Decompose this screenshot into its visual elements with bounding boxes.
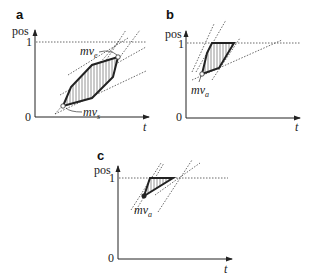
leader-mva-b xyxy=(199,76,201,82)
annotation-mvs: mvs xyxy=(83,105,100,121)
panel-label-b: b xyxy=(166,7,174,22)
start-point-b xyxy=(200,72,204,76)
feasible-region-b xyxy=(202,43,234,74)
x-axis-label-a: t xyxy=(143,120,147,134)
feasible-region-c xyxy=(144,178,173,196)
tick-0-a: 0 xyxy=(25,110,31,124)
leader-mvs xyxy=(66,108,82,112)
start-point-c xyxy=(142,194,146,198)
figure-canvas: a pos 1 0 t mve mvs b pos 1 xyxy=(0,0,312,280)
tick-0-c: 0 xyxy=(108,251,114,265)
panel-c: c pos 1 0 t mva xyxy=(94,148,232,276)
feasible-region-a xyxy=(63,57,118,106)
annotation-mve: mve xyxy=(80,44,98,60)
end-point-a xyxy=(116,55,120,59)
annotation-mva-b: mva xyxy=(191,83,209,99)
start-point-a xyxy=(61,104,65,108)
annotation-mva-c: mva xyxy=(134,203,152,219)
tick-1-b: 1 xyxy=(178,37,184,51)
panel-label-a: a xyxy=(16,7,24,22)
tick-1-c: 1 xyxy=(109,171,115,185)
x-axis-label-b: t xyxy=(295,120,299,134)
panel-a: a pos 1 0 t mve mvs xyxy=(12,7,149,134)
tick-1-a: 1 xyxy=(26,35,32,49)
panel-label-c: c xyxy=(97,148,104,163)
tick-0-b: 0 xyxy=(176,110,182,124)
x-axis-label-c: t xyxy=(224,262,228,276)
panel-b: b pos 1 0 t mva xyxy=(165,7,300,134)
